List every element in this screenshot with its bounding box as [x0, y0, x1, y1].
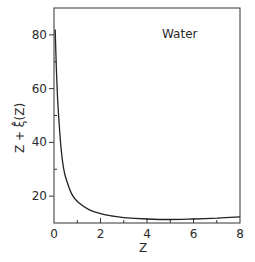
tick-labels: 0246820406080: [32, 28, 244, 241]
y-tick-label: 80: [32, 28, 47, 42]
y-tick-label: 60: [32, 82, 47, 96]
line-chart: 0246820406080 Water Z Z + ξ̂(Z): [0, 0, 255, 262]
y-tick-label: 20: [32, 189, 47, 203]
chart-container: 0246820406080 Water Z Z + ξ̂(Z): [0, 0, 255, 262]
x-tick-label: 6: [190, 227, 198, 241]
x-tick-label: 8: [236, 227, 244, 241]
x-tick-label: 0: [50, 227, 58, 241]
y-axis-label: Z + ξ̂(Z): [11, 103, 27, 153]
data-series-water: [55, 30, 240, 220]
x-tick-label: 2: [97, 227, 105, 241]
x-axis-label: Z: [139, 241, 147, 255]
series-annotation: Water: [162, 27, 198, 41]
plot-border: [54, 8, 240, 223]
x-tick-label: 4: [143, 227, 151, 241]
y-tick-label: 40: [32, 135, 47, 149]
axis-ticks: [49, 35, 217, 223]
plot-frame: [54, 8, 240, 223]
series-line: [55, 30, 240, 220]
